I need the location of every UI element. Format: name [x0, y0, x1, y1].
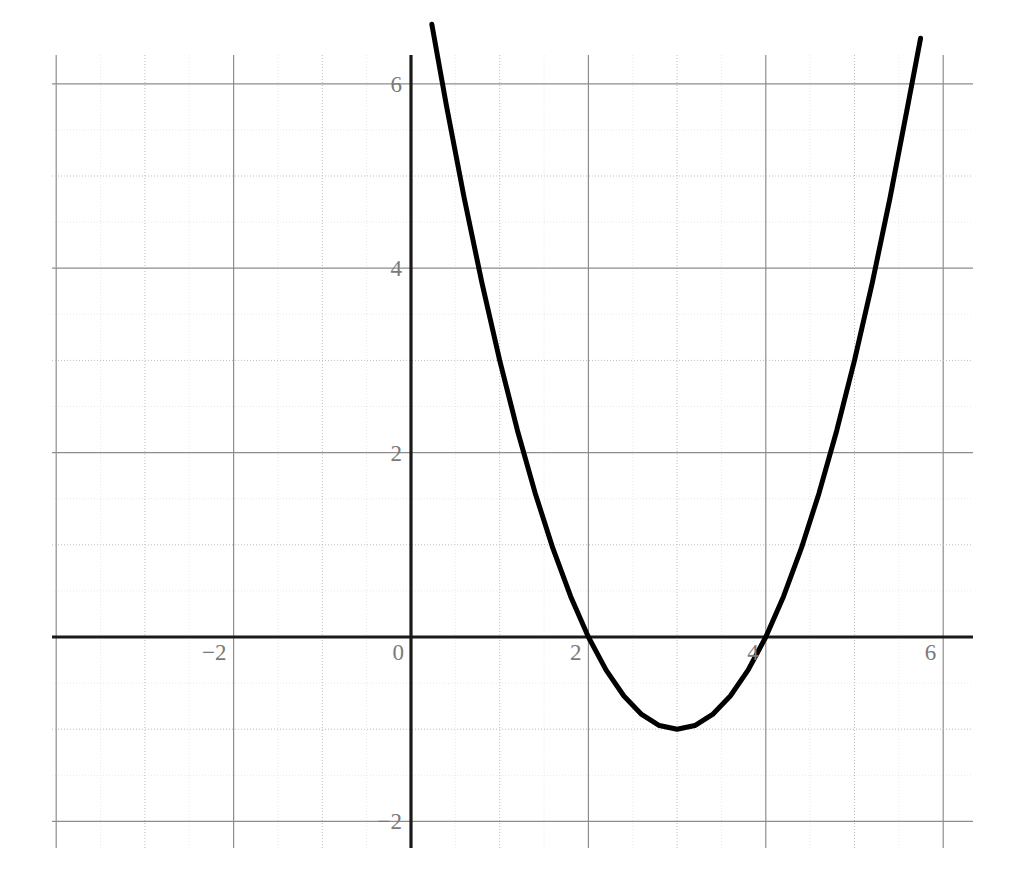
x-tick-label: 2: [570, 640, 582, 665]
x-tick-label: −2: [202, 640, 226, 665]
x-tick-label: 4: [747, 640, 759, 665]
plot-background: [0, 0, 1023, 889]
y-tick-label: 4: [391, 256, 403, 281]
y-tick-label: 2: [391, 441, 403, 466]
x-tick-label: 6: [925, 640, 937, 665]
y-tick-label: 6: [391, 72, 403, 97]
y-tick-label: −2: [378, 809, 402, 834]
plot-canvas: −20246−2246: [0, 0, 1023, 889]
x-tick-label: 0: [393, 640, 405, 665]
parabola-figure: −20246−2246: [0, 0, 1023, 889]
